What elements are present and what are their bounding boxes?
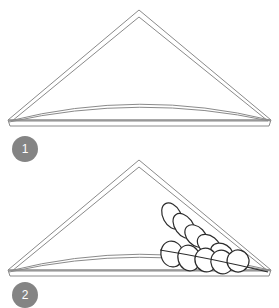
- napkin-triangle-with-leaves-illustration: [0, 146, 279, 296]
- step-1-figure: [0, 0, 279, 150]
- step-2-figure: [0, 146, 279, 296]
- napkin-triangle-illustration: [0, 0, 279, 150]
- step-badge-2: 2: [12, 282, 38, 308]
- outer-triangle: [8, 10, 271, 120]
